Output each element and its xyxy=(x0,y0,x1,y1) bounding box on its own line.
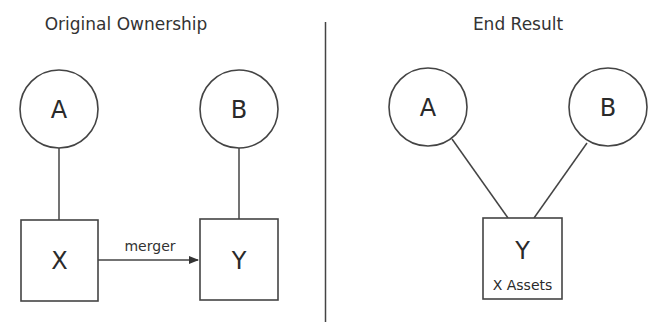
node-b-label: B xyxy=(231,96,247,124)
node-y-label: Y xyxy=(514,237,530,265)
right-panel-title: End Result xyxy=(473,14,564,34)
node-b-left: B xyxy=(200,70,278,148)
edge-a-to-y xyxy=(452,139,508,218)
node-b-right: B xyxy=(569,68,647,146)
node-y-left: Y xyxy=(200,219,278,300)
left-panel-title: Original Ownership xyxy=(45,14,208,34)
node-a-left: A xyxy=(20,70,98,148)
node-b-label: B xyxy=(600,94,616,122)
node-y-sublabel: X Assets xyxy=(493,277,553,293)
node-a-label: A xyxy=(420,94,437,122)
node-x-left: X xyxy=(21,220,98,301)
node-x-label: X xyxy=(51,247,67,275)
node-a-label: A xyxy=(51,96,68,124)
node-y-right: Y X Assets xyxy=(483,218,562,299)
edge-b-to-y xyxy=(534,143,587,218)
right-panel: A B Y X Assets xyxy=(389,68,647,299)
merger-label: merger xyxy=(124,238,175,254)
diagram-canvas: Original Ownership End Result merger A B… xyxy=(0,0,660,332)
node-y-label: Y xyxy=(231,247,247,275)
node-a-right: A xyxy=(389,68,467,146)
left-panel: merger A B X Y xyxy=(20,70,278,301)
